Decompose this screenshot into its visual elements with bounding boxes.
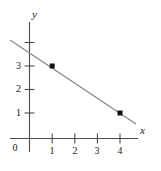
y-tick-label-2: 2 bbox=[11, 84, 21, 94]
graph-figure: y x 0 1 2 3 4 1 2 3 bbox=[0, 0, 161, 171]
y-axis-label: y bbox=[32, 9, 37, 20]
x-tick-label-1: 1 bbox=[46, 146, 58, 156]
x-axis-label: x bbox=[140, 125, 145, 136]
x-tick-label-2: 2 bbox=[69, 146, 81, 156]
origin-label: 0 bbox=[9, 143, 21, 153]
data-point-marker bbox=[50, 64, 55, 69]
plotted-line bbox=[10, 40, 136, 124]
y-tick-label-1: 1 bbox=[11, 108, 21, 118]
x-tick-label-4: 4 bbox=[114, 146, 126, 156]
data-point-marker bbox=[118, 111, 123, 116]
y-tick-label-3: 3 bbox=[11, 61, 21, 71]
x-tick-label-3: 3 bbox=[91, 146, 103, 156]
